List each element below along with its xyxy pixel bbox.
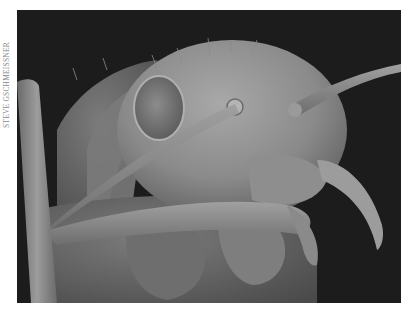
- ant-head-illustration: [17, 10, 401, 303]
- photo-credit: STEVE GSCHMEISSNER: [1, 8, 13, 128]
- compound-eye: [134, 76, 184, 140]
- sem-photograph: [17, 10, 401, 303]
- antenna-right-socket: [288, 103, 302, 117]
